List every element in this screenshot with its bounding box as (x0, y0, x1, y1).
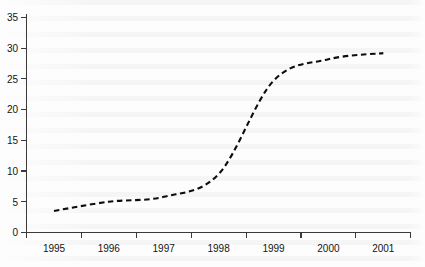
x-tick-label-1999: 1999 (262, 243, 285, 254)
y-tick-label-0: 0 (12, 227, 18, 238)
y-tick-label-15: 15 (7, 135, 19, 146)
y-tick-label-30: 30 (7, 43, 19, 54)
x-axis: 1995 1996 1997 1998 1999 2000 2001 (27, 233, 412, 255)
series-group (54, 53, 383, 211)
line-chart: 35 30 25 20 15 10 5 0 1995 1996 1997 199… (0, 0, 425, 267)
y-tick-label-20: 20 (7, 104, 19, 115)
y-tick-label-5: 5 (12, 197, 18, 208)
y-tick-label-10: 10 (7, 166, 19, 177)
x-tick-label-1998: 1998 (207, 243, 230, 254)
chart-figure: 35 30 25 20 15 10 5 0 1995 1996 1997 199… (0, 0, 425, 267)
x-tick-label-1995: 1995 (43, 243, 66, 254)
x-tick-label-1997: 1997 (153, 243, 176, 254)
x-tick-label-1996: 1996 (98, 243, 121, 254)
x-tick-label-2001: 2001 (372, 243, 395, 254)
y-tick-label-25: 25 (7, 74, 19, 85)
y-axis: 35 30 25 20 15 10 5 0 (7, 12, 27, 238)
y-tick-label-35: 35 (7, 12, 19, 23)
series-line-0 (54, 53, 383, 211)
plot-area (26, 10, 411, 232)
x-tick-label-2000: 2000 (317, 243, 340, 254)
